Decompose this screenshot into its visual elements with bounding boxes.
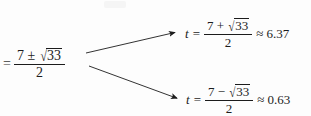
approximately-equal-icon: ≈ bbox=[257, 93, 264, 106]
negative-root-denominator: 2 bbox=[205, 101, 253, 115]
positive-root-equals-sign: = bbox=[193, 27, 200, 40]
positive-root-expression: t=7 + √332≈6.37 bbox=[185, 18, 289, 49]
negative-root-expression: t=7 − √332≈0.63 bbox=[186, 84, 290, 115]
minus-sign: − bbox=[218, 84, 225, 99]
radical-sign-icon: √ bbox=[40, 49, 46, 64]
plus-sign: + bbox=[217, 18, 224, 33]
negative-root-fraction: 7 − √332 bbox=[205, 84, 253, 115]
positive-root-radicand: 33 bbox=[234, 18, 249, 32]
negative-root-value: 0.63 bbox=[267, 93, 290, 106]
lhs-radicand: 33 bbox=[46, 48, 62, 63]
lhs-numerator: 7 ± √33 bbox=[14, 48, 65, 65]
combined-solution-expression: =7 ± √332 bbox=[3, 48, 65, 80]
radical-sign-icon: √ bbox=[230, 86, 236, 100]
math-branch-figure: =7 ± √332 t=7 + √332≈6.37 t=7 − √332≈0.6… bbox=[0, 0, 311, 116]
lhs-fraction: 7 ± √332 bbox=[14, 48, 65, 80]
scan-artifact bbox=[104, 1, 126, 8]
negative-root-radical: √33 bbox=[228, 84, 250, 99]
negative-root-variable: t bbox=[186, 93, 190, 106]
radical-sign-icon: √ bbox=[229, 20, 235, 34]
lhs-radical: √33 bbox=[39, 48, 62, 63]
lhs-denominator: 2 bbox=[14, 65, 65, 80]
negative-root-equals-sign: = bbox=[194, 93, 201, 106]
positive-root-denominator: 2 bbox=[204, 35, 252, 49]
positive-root-variable: t bbox=[185, 27, 189, 40]
arrow-to-positive-root bbox=[86, 32, 175, 53]
positive-root-radical: √33 bbox=[227, 18, 249, 33]
positive-root-value: 6.37 bbox=[266, 27, 289, 40]
positive-root-numerator: 7 + √33 bbox=[204, 18, 252, 35]
arrow-to-negative-root bbox=[89, 66, 177, 98]
negative-root-radicand: 33 bbox=[235, 84, 250, 98]
plus-minus-icon: ± bbox=[27, 48, 35, 63]
negative-root-numerator: 7 − √33 bbox=[205, 84, 253, 101]
approximately-equal-icon: ≈ bbox=[256, 27, 263, 40]
negative-root-first-term: 7 bbox=[208, 84, 215, 99]
positive-root-first-term: 7 bbox=[207, 18, 214, 33]
positive-root-fraction: 7 + √332 bbox=[204, 18, 252, 49]
lhs-equals-sign: = bbox=[3, 57, 11, 71]
lhs-first-term: 7 bbox=[17, 48, 24, 63]
